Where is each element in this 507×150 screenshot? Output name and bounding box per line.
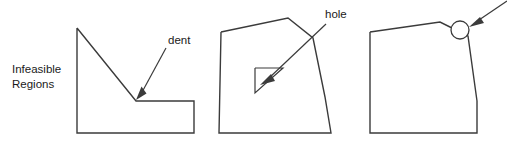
infeasible-regions-figure: Infeasible Regions dent hole bbox=[0, 0, 507, 150]
hole-arrowhead bbox=[260, 74, 275, 85]
dent-arrowhead bbox=[136, 87, 147, 101]
panel-hole: hole bbox=[219, 8, 347, 133]
bump-marker-circle bbox=[451, 21, 469, 39]
hole-label: hole bbox=[325, 8, 347, 20]
hole-leader-line bbox=[268, 24, 326, 79]
caption-line-2: Regions bbox=[12, 78, 54, 90]
panel-bump bbox=[370, 1, 507, 133]
figure-canvas: Infeasible Regions dent hole bbox=[0, 0, 507, 150]
caption-line-1: Infeasible bbox=[12, 63, 61, 75]
dent-label: dent bbox=[168, 34, 191, 46]
panel-dent: dent bbox=[77, 28, 194, 133]
dent-leader-line bbox=[141, 48, 166, 94]
